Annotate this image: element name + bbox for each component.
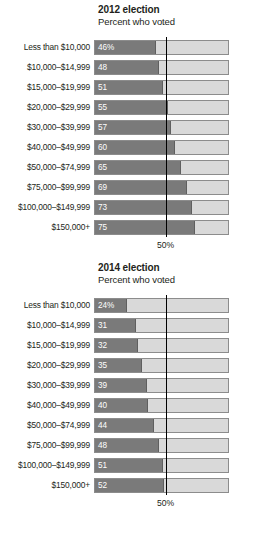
bar-track: 75	[94, 220, 229, 235]
bar-fill	[95, 201, 192, 214]
table-row: $150,000+ 52	[0, 475, 254, 495]
bar-value-label: 75	[98, 223, 107, 232]
row-label: $150,000+	[0, 222, 94, 232]
chart-2014-election: 2014 election Percent who voted Less tha…	[0, 258, 254, 539]
bar-track: 48	[94, 438, 229, 453]
chart-2012-title: 2012 election	[98, 4, 248, 16]
table-row: $10,000–$14,999 48	[0, 57, 254, 77]
bar-value-label: 55	[98, 103, 107, 112]
table-row: $75,000–$99,999 48	[0, 435, 254, 455]
bar-fill	[95, 221, 195, 234]
bar-track: 51	[94, 458, 229, 473]
bar-track: 39	[94, 378, 229, 393]
row-label: $50,000–$74,999	[0, 162, 94, 172]
bar-value-label: 35	[98, 361, 107, 370]
row-label: $20,000–$29,999	[0, 102, 94, 112]
chart-2014-rows: Less than $10,000 24% $10,000–$14,999 31…	[0, 295, 254, 495]
table-row: $100,000–$149,999 73	[0, 197, 254, 217]
bar-track: 69	[94, 180, 229, 195]
row-label: $100,000–$149,999	[0, 460, 94, 470]
chart-2014-title: 2014 election	[98, 262, 248, 274]
table-row: $10,000–$14,999 31	[0, 315, 254, 335]
bar-value-label: 44	[98, 421, 107, 430]
row-label: $150,000+	[0, 480, 94, 490]
row-label: $20,000–$29,999	[0, 360, 94, 370]
bar-value-label: 73	[98, 203, 107, 212]
bar-track: 51	[94, 80, 229, 95]
table-row: $20,000–$29,999 55	[0, 97, 254, 117]
row-label: $75,000–$99,999	[0, 182, 94, 192]
reference-line-50	[166, 295, 167, 495]
bar-track: 65	[94, 160, 229, 175]
table-row: $15,000–$19,999 32	[0, 335, 254, 355]
row-label: $100,000–$149,999	[0, 202, 94, 212]
table-row: $150,000+ 75	[0, 217, 254, 237]
chart-2012-rows: Less than $10,000 46% $10,000–$14,999 48…	[0, 37, 254, 237]
bar-value-label: 40	[98, 401, 107, 410]
table-row: $15,000–$19,999 51	[0, 77, 254, 97]
bar-track: 60	[94, 140, 229, 155]
bar-track: 40	[94, 398, 229, 413]
bar-track: 57	[94, 120, 229, 135]
bar-value-label: 65	[98, 163, 107, 172]
row-label: $50,000–$74,999	[0, 420, 94, 430]
chart-2012-subtitle: Percent who voted	[98, 16, 248, 28]
bar-track: 46%	[94, 40, 229, 55]
bar-value-label: 48	[98, 63, 107, 72]
table-row: $20,000–$29,999 35	[0, 355, 254, 375]
bar-fill	[95, 181, 187, 194]
table-row: $30,000–$39,999 39	[0, 375, 254, 395]
table-row: $100,000–$149,999 51	[0, 455, 254, 475]
bar-value-label: 52	[98, 481, 107, 490]
bar-track: 32	[94, 338, 229, 353]
bar-value-label: 39	[98, 381, 107, 390]
row-label: Less than $10,000	[0, 300, 94, 310]
row-label: $30,000–$39,999	[0, 122, 94, 132]
row-label: $15,000–$19,999	[0, 340, 94, 350]
chart-2012-header: 2012 election Percent who voted	[98, 4, 248, 28]
bar-value-label: 31	[98, 321, 107, 330]
table-row: $50,000–$74,999 44	[0, 415, 254, 435]
table-row: $50,000–$74,999 65	[0, 157, 254, 177]
row-label: $10,000–$14,999	[0, 62, 94, 72]
bar-value-label: 24%	[98, 301, 114, 310]
bar-value-label: 51	[98, 461, 107, 470]
bar-fill	[95, 161, 181, 174]
bar-track: 31	[94, 318, 229, 333]
table-row: $30,000–$39,999 57	[0, 117, 254, 137]
bar-track: 52	[94, 478, 229, 493]
table-row: Less than $10,000 46%	[0, 37, 254, 57]
bar-value-label: 69	[98, 183, 107, 192]
bar-value-label: 48	[98, 441, 107, 450]
bar-value-label: 32	[98, 341, 107, 350]
table-row: Less than $10,000 24%	[0, 295, 254, 315]
bar-track: 73	[94, 200, 229, 215]
row-label: $15,000–$19,999	[0, 82, 94, 92]
bar-value-label: 60	[98, 143, 107, 152]
chart-2012-election: 2012 election Percent who voted Less tha…	[0, 0, 254, 258]
row-label: $10,000–$14,999	[0, 320, 94, 330]
row-label: $40,000–$49,999	[0, 142, 94, 152]
bar-track: 48	[94, 60, 229, 75]
chart-2014-header: 2014 election Percent who voted	[98, 262, 248, 286]
bar-track: 55	[94, 100, 229, 115]
income-voter-turnout-figure: 2012 election Percent who voted Less tha…	[0, 0, 254, 539]
bar-value-label: 51	[98, 83, 107, 92]
row-label: $30,000–$39,999	[0, 380, 94, 390]
bar-track: 44	[94, 418, 229, 433]
bar-value-label: 57	[98, 123, 107, 132]
row-label: $75,000–$99,999	[0, 440, 94, 450]
reference-line-50	[166, 37, 167, 237]
table-row: $75,000–$99,999 69	[0, 177, 254, 197]
table-row: $40,000–$49,999 40	[0, 395, 254, 415]
bar-value-label: 46%	[98, 43, 114, 52]
reference-line-label: 50%	[157, 498, 174, 508]
row-label: $40,000–$49,999	[0, 400, 94, 410]
table-row: $40,000–$49,999 60	[0, 137, 254, 157]
chart-2014-subtitle: Percent who voted	[98, 274, 248, 286]
bar-track: 35	[94, 358, 229, 373]
row-label: Less than $10,000	[0, 42, 94, 52]
reference-line-label: 50%	[157, 240, 174, 250]
bar-track: 24%	[94, 298, 229, 313]
